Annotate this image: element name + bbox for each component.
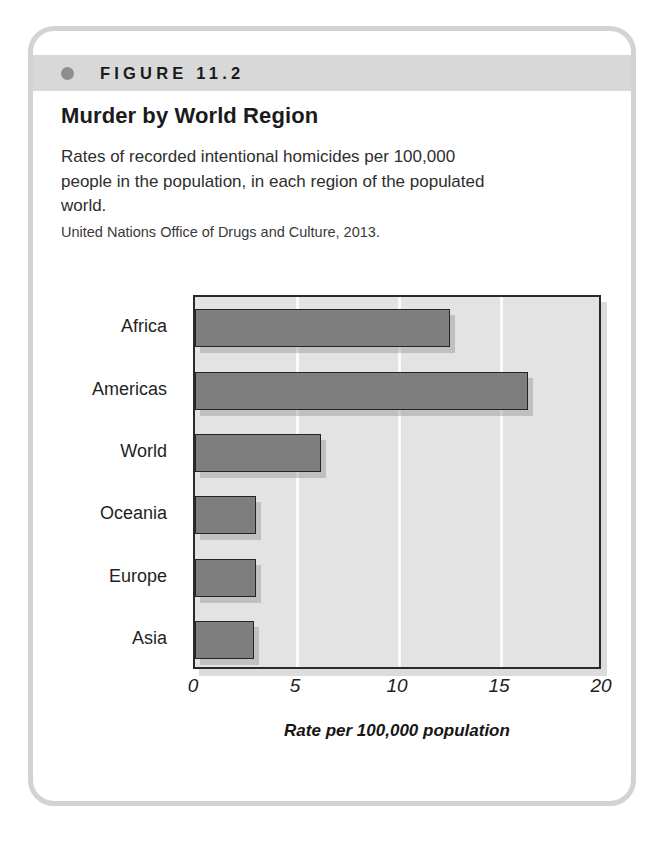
figure-label: FIGURE 11.2 <box>100 64 244 83</box>
figure-source: United Nations Office of Drugs and Cultu… <box>61 223 609 243</box>
chart-y-tick-label: World <box>120 440 167 461</box>
chart-bar-row <box>195 309 603 347</box>
chart-bar-row <box>195 372 603 410</box>
chart-plot-area <box>193 295 601 669</box>
chart-x-axis-ticks: 05101520 <box>193 675 601 705</box>
chart-bar <box>195 496 256 534</box>
chart-bar-row <box>195 621 603 659</box>
figure-text-block: Murder by World Region Rates of recorded… <box>61 103 609 242</box>
chart-bar <box>195 559 256 597</box>
chart-x-tick-label: 0 <box>188 675 199 697</box>
figure-description: Rates of recorded intentional homicides … <box>61 145 486 217</box>
chart-x-tick-label: 5 <box>290 675 301 697</box>
chart-inner: AfricaAmericasWorldOceaniaEuropeAsia 051… <box>51 289 623 789</box>
chart-y-tick-label: Africa <box>121 316 167 337</box>
chart-gridline <box>398 297 401 667</box>
chart-x-tick-label: 20 <box>590 675 611 697</box>
chart-gridline <box>500 297 503 667</box>
chart-bar <box>195 434 321 472</box>
chart-y-axis-labels: AfricaAmericasWorldOceaniaEuropeAsia <box>51 295 179 669</box>
bullet-dot-icon <box>61 67 74 80</box>
chart-bar-row <box>195 496 603 534</box>
chart-y-tick-label: Europe <box>109 565 167 586</box>
chart-x-tick-label: 15 <box>488 675 509 697</box>
page-title: Murder by World Region <box>61 103 609 129</box>
chart-bar <box>195 621 254 659</box>
figure-header-bar: FIGURE 11.2 <box>33 55 631 91</box>
chart-bar <box>195 372 528 410</box>
chart-x-tick-label: 10 <box>386 675 407 697</box>
chart-y-tick-label: Americas <box>92 378 167 399</box>
chart-y-tick-label: Oceania <box>100 503 167 524</box>
chart: AfricaAmericasWorldOceaniaEuropeAsia 051… <box>33 289 631 789</box>
chart-bar-row <box>195 559 603 597</box>
chart-bar <box>195 309 450 347</box>
chart-gridline <box>296 297 299 667</box>
chart-y-tick-label: Asia <box>132 627 167 648</box>
chart-x-axis-title: Rate per 100,000 population <box>193 721 601 741</box>
figure-card: FIGURE 11.2 Murder by World Region Rates… <box>28 26 636 806</box>
chart-bar-row <box>195 434 603 472</box>
